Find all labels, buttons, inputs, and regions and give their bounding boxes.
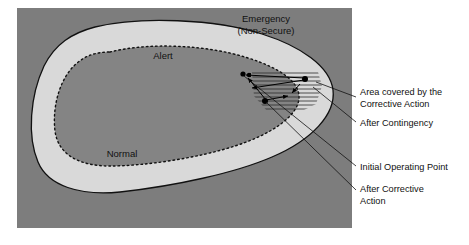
callout-area-covered-line2: Corrective Action xyxy=(360,99,429,109)
security-states-figure: Emergency (Non-Secure) Alert Normal Area… xyxy=(0,0,469,245)
callout-initial-operating-point: Initial Operating Point xyxy=(360,162,448,172)
callout-area-covered-line1: Area covered by the xyxy=(360,87,442,97)
alert-label: Alert xyxy=(153,50,173,61)
callout-after-corrective-action-line1: After Corrective xyxy=(360,184,424,194)
initial-operating-point-dot xyxy=(240,71,245,76)
hatched-area-dot xyxy=(247,73,251,77)
diagram-canvas: Emergency (Non-Secure) Alert Normal Area… xyxy=(0,0,469,245)
callout-after-contingency: After Contingency xyxy=(360,118,433,128)
normal-label: Normal xyxy=(107,148,138,159)
emergency-label-line2: (Non-Secure) xyxy=(237,25,294,36)
after-contingency-dot xyxy=(302,76,308,82)
callout-after-corrective-action-line2: Action xyxy=(360,196,386,206)
emergency-label-line1: Emergency xyxy=(242,13,290,24)
